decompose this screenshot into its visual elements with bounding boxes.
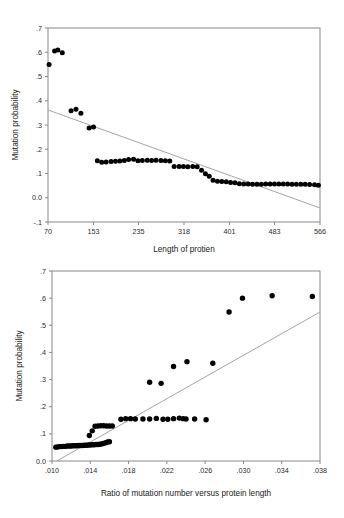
- data-point: [95, 158, 100, 163]
- data-point: [228, 180, 233, 185]
- data-point: [113, 159, 118, 164]
- scatter-plot-top: 70153235318401483566 -.10.0.1.2.3.4.5.6.…: [0, 0, 344, 259]
- data-point: [55, 48, 60, 53]
- y-tick-label: .6: [36, 48, 42, 57]
- x-tick-label: .034: [275, 466, 289, 475]
- y-tick-label: .1: [40, 429, 46, 438]
- data-point: [147, 416, 152, 421]
- data-point: [163, 158, 168, 163]
- x-axis-title-bottom: Ratio of mutation number versus protein …: [101, 489, 272, 498]
- data-point: [154, 416, 159, 421]
- data-point: [135, 158, 140, 163]
- data-point: [316, 183, 321, 188]
- data-point: [285, 181, 290, 186]
- data-point: [109, 159, 114, 164]
- data-point: [117, 158, 122, 163]
- data-point: [203, 417, 208, 422]
- data-point: [165, 417, 170, 422]
- data-point: [195, 164, 200, 169]
- data-point: [219, 179, 224, 184]
- data-point: [47, 62, 52, 67]
- data-point: [158, 158, 163, 163]
- data-point: [154, 158, 159, 163]
- data-point: [303, 182, 308, 187]
- y-tick-label: .2: [36, 145, 42, 154]
- y-tick-label: .5: [40, 321, 46, 330]
- data-point: [110, 423, 115, 428]
- x-axis-ticks-top: 70153235318401483566: [44, 222, 326, 236]
- y-tick-label: .4: [36, 96, 42, 105]
- x-tick-label: 153: [88, 227, 100, 236]
- data-point: [177, 164, 182, 169]
- y-tick-label: .1: [36, 169, 42, 178]
- data-point: [171, 416, 176, 421]
- data-points-top: [47, 48, 321, 188]
- x-tick-label: .030: [236, 466, 250, 475]
- y-tick-label: 0.0: [36, 457, 46, 466]
- data-point: [122, 158, 127, 163]
- data-point: [190, 164, 195, 169]
- x-axis-ticks-bottom: .010.014.018.022.026.030.034.038: [45, 461, 327, 475]
- data-point: [87, 125, 92, 130]
- data-point: [199, 168, 204, 173]
- y-tick-label: .3: [40, 375, 46, 384]
- data-point: [87, 433, 92, 438]
- data-point: [254, 182, 259, 187]
- y-tick-label: .4: [40, 348, 46, 357]
- y-tick-label: .2: [40, 402, 46, 411]
- data-point: [250, 182, 255, 187]
- data-point: [131, 157, 136, 162]
- data-point: [104, 160, 109, 165]
- data-point: [259, 182, 264, 187]
- y-axis-ticks-top: -.10.0.1.2.3.4.5.6.7: [32, 24, 48, 227]
- data-point: [118, 417, 123, 422]
- data-point: [158, 381, 163, 386]
- data-point: [90, 428, 95, 433]
- regression-line-top: [48, 110, 320, 208]
- data-point: [210, 361, 215, 366]
- data-point: [181, 164, 186, 169]
- data-point: [123, 416, 128, 421]
- x-tick-label: 401: [224, 227, 236, 236]
- data-point: [133, 416, 138, 421]
- data-point: [237, 181, 242, 186]
- data-point: [184, 359, 189, 364]
- data-point: [240, 295, 245, 300]
- data-point: [211, 178, 216, 183]
- data-point: [145, 158, 150, 163]
- data-point: [140, 158, 145, 163]
- data-point: [147, 380, 152, 385]
- data-point: [78, 111, 83, 116]
- data-point: [246, 181, 251, 186]
- data-point: [263, 181, 268, 186]
- x-axis-title-top: Length of protien: [153, 245, 215, 254]
- data-point: [226, 309, 231, 314]
- data-point: [310, 294, 315, 299]
- x-tick-label: 483: [268, 227, 280, 236]
- chart-top-protein-length: 70153235318401483566 -.10.0.1.2.3.4.5.6.…: [0, 0, 344, 259]
- data-point: [298, 182, 303, 187]
- x-tick-label: 235: [132, 227, 144, 236]
- x-tick-label: .038: [313, 466, 327, 475]
- data-point: [172, 164, 177, 169]
- x-tick-label: .022: [160, 466, 174, 475]
- data-point: [69, 108, 74, 113]
- data-point: [281, 181, 286, 186]
- data-point: [99, 160, 104, 165]
- x-tick-label: 70: [44, 227, 52, 236]
- data-point: [183, 416, 188, 421]
- data-point: [207, 174, 212, 179]
- data-point: [73, 107, 78, 112]
- x-tick-label: .026: [198, 466, 212, 475]
- y-axis-title-bottom: Mutation probability: [15, 330, 24, 402]
- y-tick-label: .6: [40, 294, 46, 303]
- data-point: [272, 181, 277, 186]
- y-tick-label: .5: [36, 72, 42, 81]
- scatter-plot-bottom: .010.014.018.022.026.030.034.038 0.0.1.2…: [0, 259, 344, 518]
- data-point: [276, 181, 281, 186]
- data-point: [224, 179, 229, 184]
- data-point: [140, 416, 145, 421]
- x-tick-label: .014: [83, 466, 97, 475]
- data-point: [126, 157, 131, 162]
- data-point: [307, 182, 312, 187]
